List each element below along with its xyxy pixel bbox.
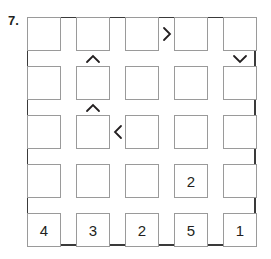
empty-cell[interactable] <box>27 66 61 100</box>
empty-cell[interactable] <box>125 164 159 198</box>
empty-cell[interactable] <box>174 66 208 100</box>
empty-cell[interactable] <box>76 115 110 149</box>
given-cell: 1 <box>223 213 257 247</box>
empty-cell[interactable] <box>223 164 257 198</box>
empty-cell[interactable] <box>125 17 159 51</box>
empty-cell[interactable] <box>76 66 110 100</box>
empty-cell[interactable] <box>76 164 110 198</box>
puzzle-number: 7. <box>8 13 19 28</box>
caret-up-icon <box>85 51 101 67</box>
empty-cell[interactable] <box>76 17 110 51</box>
less-than-icon <box>110 124 126 140</box>
empty-cell[interactable] <box>27 17 61 51</box>
empty-cell[interactable] <box>27 164 61 198</box>
empty-cell[interactable] <box>174 17 208 51</box>
greater-than-icon <box>159 26 175 42</box>
empty-cell[interactable] <box>27 115 61 149</box>
given-cell: 3 <box>76 213 110 247</box>
empty-cell[interactable] <box>223 66 257 100</box>
caret-up-icon <box>85 100 101 116</box>
empty-cell[interactable] <box>125 115 159 149</box>
given-cell: 5 <box>174 213 208 247</box>
given-cell: 2 <box>174 164 208 198</box>
caret-down-icon <box>232 51 248 67</box>
empty-cell[interactable] <box>223 115 257 149</box>
given-cell: 2 <box>125 213 159 247</box>
empty-cell[interactable] <box>125 66 159 100</box>
empty-cell[interactable] <box>223 17 257 51</box>
given-cell: 4 <box>27 213 61 247</box>
empty-cell[interactable] <box>174 115 208 149</box>
